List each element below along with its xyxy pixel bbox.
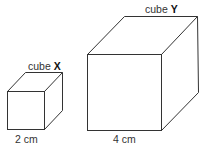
cube-y-side-label: 4 cm: [113, 133, 136, 145]
cube-y: cube Y 4 cm: [88, 3, 199, 145]
cube-y-front-face: [88, 55, 162, 131]
cubes-diagram: cube X 2 cm cube Y 4 cm: [0, 0, 208, 160]
cube-x-name-label: cube X: [28, 60, 61, 72]
cube-x-side-label: 2 cm: [15, 133, 38, 145]
cube-x-front-face: [8, 92, 45, 130]
cube-x-side-face: [45, 73, 63, 130]
cube-y-name-label: cube Y: [145, 3, 178, 15]
cube-y-side-face: [162, 17, 199, 131]
cube-x-top-face: [8, 73, 63, 92]
cube-x: cube X 2 cm: [8, 60, 63, 145]
cube-y-top-face: [88, 17, 198, 55]
